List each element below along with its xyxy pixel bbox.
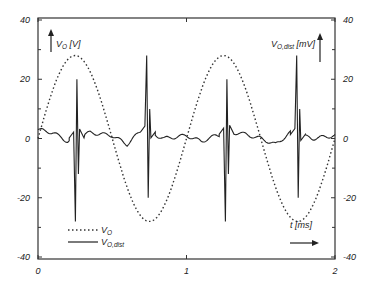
svg-text:VO,dist [mV]: VO,dist [mV] bbox=[271, 39, 316, 50]
svg-text:40: 40 bbox=[20, 15, 30, 25]
x-axis-label: t [ms] bbox=[290, 220, 319, 246]
series-vo-line bbox=[38, 56, 335, 222]
svg-text:-20: -20 bbox=[17, 193, 30, 203]
svg-text:1: 1 bbox=[184, 266, 189, 276]
series-vodist-line bbox=[38, 56, 335, 222]
svg-text:-40: -40 bbox=[17, 252, 30, 262]
svg-text:0: 0 bbox=[343, 134, 348, 144]
svg-text:40: 40 bbox=[343, 15, 353, 25]
arrowhead-icon bbox=[317, 33, 323, 40]
chart: 40200-20-4040200-20-40012 VO [V] VO,dist… bbox=[0, 0, 374, 292]
svg-text:0: 0 bbox=[35, 266, 40, 276]
svg-text:t [ms]: t [ms] bbox=[290, 220, 312, 230]
svg-text:VO [V]: VO [V] bbox=[56, 39, 81, 50]
legend: VO VO,dist bbox=[68, 225, 125, 248]
svg-text:-40: -40 bbox=[343, 252, 356, 262]
left-axis-label: VO [V] bbox=[48, 29, 81, 52]
svg-text:20: 20 bbox=[19, 74, 30, 84]
arrowhead-icon bbox=[312, 240, 319, 246]
tick-labels: 40200-20-4040200-20-40012 bbox=[17, 15, 356, 276]
arrowhead-icon bbox=[48, 29, 54, 36]
legend-vo-label: VO bbox=[101, 225, 112, 236]
svg-text:0: 0 bbox=[25, 134, 30, 144]
legend-vodist-label: VO,dist bbox=[101, 237, 125, 248]
svg-text:2: 2 bbox=[331, 266, 337, 276]
svg-text:20: 20 bbox=[342, 74, 353, 84]
svg-text:-20: -20 bbox=[343, 193, 356, 203]
